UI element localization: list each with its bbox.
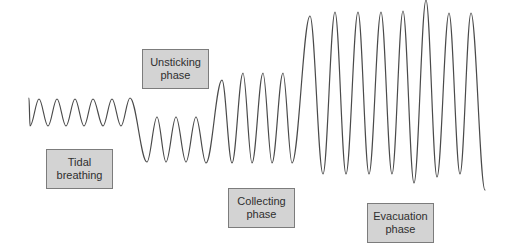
collecting-phase-label: Collecting phase (237, 195, 285, 221)
unsticking-phase-label-box: Unsticking phase (142, 49, 209, 89)
unsticking-phase-label: Unsticking phase (150, 56, 201, 82)
evacuation-phase-label-box: Evacuation phase (367, 203, 434, 243)
collecting-phase-label-box: Collecting phase (228, 188, 295, 228)
airway-clearance-diagram: Tidal breathing Unsticking phase Collect… (0, 0, 507, 248)
tidal-breathing-label-box: Tidal breathing (46, 149, 113, 189)
tidal-breathing-label: Tidal breathing (57, 156, 103, 182)
evacuation-phase-label: Evacuation phase (373, 210, 427, 236)
